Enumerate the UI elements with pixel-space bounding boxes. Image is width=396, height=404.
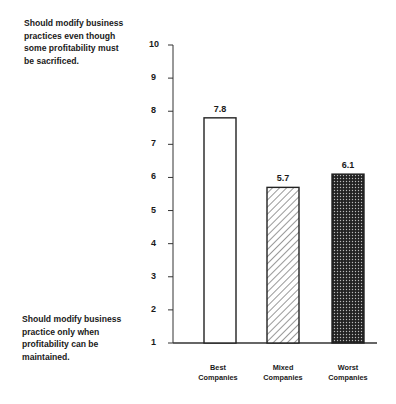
bar-mixed-companies — [267, 187, 299, 343]
y-tick-label: 7 — [136, 138, 156, 148]
category-label: BestCompanies — [188, 363, 248, 383]
bar-value-label: 7.8 — [204, 104, 236, 114]
category-label-line: Companies — [188, 373, 248, 383]
category-label-line: Mixed — [253, 363, 313, 373]
bar-worst-companies — [332, 174, 364, 343]
category-label: MixedCompanies — [253, 363, 313, 383]
category-label-line: Companies — [318, 373, 378, 383]
y-tick-label: 8 — [136, 105, 156, 115]
y-tick-label: 10 — [139, 39, 159, 49]
y-tick-label: 5 — [136, 205, 156, 215]
plot-area — [0, 0, 396, 404]
y-tick-label: 2 — [136, 304, 156, 314]
category-label: WorstCompanies — [318, 363, 378, 383]
y-tick-label: 3 — [136, 271, 156, 281]
category-label-line: Best — [188, 363, 248, 373]
y-tick-label: 6 — [136, 171, 156, 181]
bar-best-companies — [204, 118, 236, 343]
bar-value-label: 6.1 — [332, 160, 364, 170]
y-tick-label: 1 — [136, 337, 156, 347]
category-label-line: Companies — [253, 373, 313, 383]
y-tick-label: 4 — [136, 238, 156, 248]
bar-value-label: 5.7 — [267, 173, 299, 183]
y-tick-label: 9 — [136, 72, 156, 82]
category-label-line: Worst — [318, 363, 378, 373]
